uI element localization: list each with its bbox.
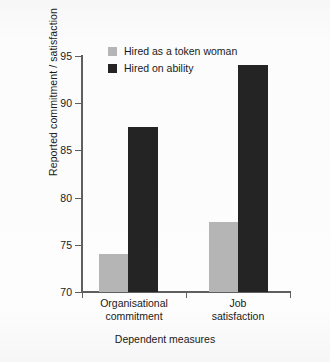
- y-axis-tick-75: [75, 245, 82, 246]
- y-axis-tick-95: [75, 56, 82, 57]
- category-label-job-satisfaction: Job satisfaction: [190, 297, 286, 322]
- y-axis-tick-text-75: 75: [52, 240, 72, 250]
- y-axis-tick-80: [75, 198, 82, 199]
- y-axis-tick-label-75: 75: [52, 240, 72, 251]
- y-axis-tick-label-70: 70: [52, 287, 72, 298]
- bar-token-woman-organisational: [99, 254, 128, 292]
- x-axis-tick-left: [82, 292, 83, 298]
- x-axis-tick-center: [186, 292, 187, 298]
- y-axis-tick-text-80: 80: [52, 193, 72, 203]
- category-label-job-line1: Job: [190, 297, 286, 310]
- category-label-organisational-commitment: Organisational commitment: [86, 297, 182, 322]
- plot-area: [82, 56, 290, 292]
- category-label-job-line2: satisfaction: [190, 310, 286, 323]
- x-axis-title: Dependent measures: [0, 333, 330, 345]
- bar-chart-figure: Hired as a token woman Hired on ability …: [0, 0, 330, 362]
- y-axis-tick-85: [75, 150, 82, 151]
- bar-token-woman-job: [209, 222, 238, 292]
- legend-swatch-token-woman: [108, 47, 117, 56]
- category-label-organisational-line1: Organisational: [86, 297, 182, 310]
- y-axis-title: Reported commitment / satisfaction: [47, 0, 59, 192]
- bar-ability-job: [238, 65, 268, 292]
- y-axis-tick-70: [75, 292, 82, 293]
- x-axis-tick-right: [290, 292, 291, 298]
- category-label-organisational-line2: commitment: [86, 310, 182, 323]
- y-axis-tick-90: [75, 103, 82, 104]
- bar-ability-organisational: [128, 127, 158, 292]
- y-axis-tick-label-80: 80: [52, 193, 72, 204]
- y-axis-tick-text-70: 70: [52, 287, 72, 297]
